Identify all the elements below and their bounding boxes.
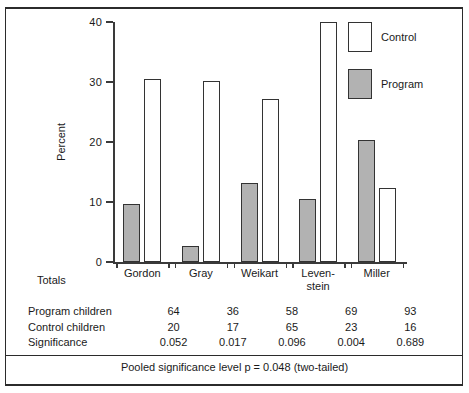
bar-control-weikart <box>262 99 279 262</box>
table-cell: 16 <box>381 321 440 337</box>
bar-control-gordon <box>144 79 161 262</box>
table-cell: 0.689 <box>381 336 440 352</box>
bar-program-gordon <box>123 204 140 262</box>
table-row-header: Significance <box>28 336 144 352</box>
table-cell: 0.096 <box>262 336 321 352</box>
table-cell: 0.052 <box>144 336 203 352</box>
table-cell: 0.017 <box>203 336 262 352</box>
table-row-header: Control children <box>28 321 144 337</box>
table-row-header: Program children <box>28 305 144 321</box>
table-cell: 69 <box>322 305 381 321</box>
footer-divider-top <box>6 355 463 356</box>
table-cell: 64 <box>144 305 203 321</box>
y-axis-tick <box>106 21 113 23</box>
footer-note: Pooled significance level p = 0.048 (two… <box>0 361 469 373</box>
x-axis-line <box>113 262 407 264</box>
legend-item-control: Control <box>348 22 458 52</box>
x-axis-label-miller: Miller <box>338 267 416 280</box>
table-cell: 0.004 <box>322 336 381 352</box>
y-axis-tick-label: 0 <box>96 256 102 268</box>
table-cell: 36 <box>203 305 262 321</box>
footer-divider-bottom <box>6 384 463 385</box>
y-axis-tick <box>106 141 113 143</box>
data-table: Program children6436586993Control childr… <box>28 305 440 352</box>
y-axis-title: Percent <box>55 123 67 161</box>
bar-program-weikart <box>241 183 258 262</box>
y-axis-tick-label: 20 <box>89 136 102 148</box>
legend-swatch-program <box>348 69 372 99</box>
y-axis-line <box>113 22 115 263</box>
legend-swatch-control <box>348 22 372 52</box>
y-axis-tick-label: 10 <box>89 196 102 208</box>
table-row: Program children6436586993 <box>28 305 440 321</box>
y-axis-tick <box>106 201 113 203</box>
table-row: Control children2017652316 <box>28 321 440 337</box>
chart-legend: ControlProgram <box>348 22 458 116</box>
table-cell: 23 <box>322 321 381 337</box>
bar-program-gray <box>182 246 199 262</box>
table-cell: 17 <box>203 321 262 337</box>
table-cell: 65 <box>262 321 321 337</box>
bar-program-miller <box>358 140 375 262</box>
totals-label: Totals <box>37 274 66 286</box>
y-axis-tick <box>106 81 113 83</box>
legend-label-program: Program <box>381 78 423 90</box>
table-cell: 20 <box>144 321 203 337</box>
clipped-header-text <box>0 0 469 5</box>
bar-control-gray <box>203 81 220 262</box>
bar-control-levenstein <box>320 22 337 262</box>
legend-item-program: Program <box>348 69 458 99</box>
legend-label-control: Control <box>381 31 416 43</box>
y-axis-tick <box>106 261 113 263</box>
table-cell: 93 <box>381 305 440 321</box>
figure-panel: Percent 010203040 GordonGrayWeikartLeven… <box>0 0 469 393</box>
table-cell: 58 <box>262 305 321 321</box>
bar-program-levenstein <box>299 199 316 262</box>
table-row: Significance0.0520.0170.0960.0040.689 <box>28 336 440 352</box>
y-axis-tick-label: 40 <box>89 16 102 28</box>
y-axis-tick-label: 30 <box>89 76 102 88</box>
bar-control-miller <box>379 188 396 262</box>
